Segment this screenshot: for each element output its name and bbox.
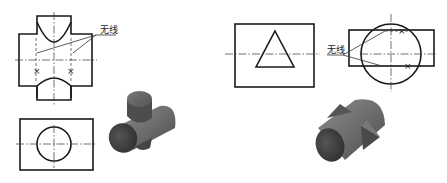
- vertical-cylinder-cap: [127, 91, 152, 107]
- cross-marker: ×: [404, 61, 412, 71]
- left-top-view: [16, 119, 97, 170]
- annotation-label: 无线: [327, 44, 345, 55]
- technical-drawing: × × 无线 × ×: [0, 0, 447, 183]
- left-3d-model: [104, 91, 175, 158]
- cross-marker: ×: [33, 66, 41, 76]
- right-3d-model: [311, 99, 385, 165]
- front-view-triangle: [256, 31, 294, 67]
- annotation-label: 无线: [100, 24, 118, 35]
- right-front-view: [225, 24, 320, 87]
- cross-marker: ×: [398, 26, 406, 36]
- left-front-view: × × 无线: [15, 12, 118, 106]
- cross-marker: ×: [67, 66, 75, 76]
- right-side-view: × × 无线: [327, 14, 436, 92]
